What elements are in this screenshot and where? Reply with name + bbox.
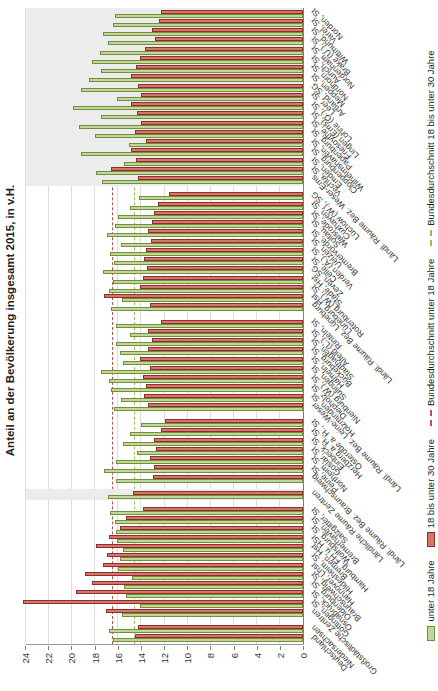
bar-pair xyxy=(26,238,303,247)
bar-pair xyxy=(26,402,303,411)
bar-unter18 xyxy=(121,398,303,402)
bar-unter18 xyxy=(118,215,303,219)
bar-18-30 xyxy=(140,56,303,60)
chart-title: Anteil an der Bevölkerung insgesamt 2015… xyxy=(4,10,16,631)
bar-18-30 xyxy=(150,456,304,460)
bar-18-30 xyxy=(138,625,303,629)
bar-unter18 xyxy=(120,351,304,355)
bar-pair xyxy=(26,247,303,256)
bar-unter18 xyxy=(129,143,303,147)
bar-group-band xyxy=(26,489,303,500)
bar-unter18 xyxy=(116,460,303,464)
bar-unter18 xyxy=(102,180,303,184)
y-tick-mark xyxy=(280,646,281,650)
bar-pair xyxy=(26,446,303,455)
bar-18-30 xyxy=(143,375,303,379)
bar-pair xyxy=(26,437,303,446)
bar-groups xyxy=(26,8,303,644)
bar-18-30 xyxy=(143,507,303,511)
y-tick-label: 2 xyxy=(275,653,286,658)
bar-pair xyxy=(26,328,303,337)
bar-pair xyxy=(26,102,303,111)
bar-pair xyxy=(26,192,303,201)
bar-18-30 xyxy=(140,357,303,361)
bar-unter18 xyxy=(95,134,303,138)
bar-18-30 xyxy=(120,526,304,530)
bar-pair xyxy=(26,525,303,534)
bar-pair xyxy=(26,490,303,499)
bar-group-band xyxy=(26,506,303,619)
bar-unter18 xyxy=(139,196,303,200)
bar-18-30 xyxy=(148,347,303,351)
bar-pair xyxy=(26,37,303,46)
legend-swatch-dash-red xyxy=(430,410,432,426)
bar-pair xyxy=(26,28,303,37)
bar-18-30 xyxy=(141,121,303,125)
label-group: DeutschlandNiedersachsen xyxy=(306,624,410,645)
bar-18-30 xyxy=(146,139,303,143)
bar-pair xyxy=(26,148,303,157)
bar-pair xyxy=(26,384,303,393)
bar-18-30 xyxy=(111,167,303,171)
bar-unter18 xyxy=(115,520,303,524)
legend-item-dash-red: Bundesdurchschnitt unter 18 Jahre xyxy=(425,259,436,426)
bar-18-30 xyxy=(136,158,303,162)
bar-unter18 xyxy=(81,88,303,92)
bar-pair xyxy=(26,229,303,238)
bar-18-30 xyxy=(92,581,303,585)
bar-unter18 xyxy=(121,243,303,247)
y-tick-label: 8 xyxy=(205,653,216,658)
y-tick-label: 18 xyxy=(90,653,101,664)
bar-group-band xyxy=(26,624,303,645)
bar-18-30 xyxy=(165,419,304,423)
bar-pair xyxy=(26,83,303,92)
bar-pair xyxy=(26,220,303,229)
bar-18-30 xyxy=(136,65,303,69)
bar-pair xyxy=(26,375,303,384)
y-tick-mark xyxy=(71,646,72,650)
y-tick-label: 12 xyxy=(159,653,170,664)
bar-18-30 xyxy=(154,465,303,469)
bar-unter18 xyxy=(122,613,303,617)
plot-background xyxy=(26,8,304,645)
bar-unter18 xyxy=(117,97,303,101)
y-tick-label: 6 xyxy=(229,653,240,658)
bar-pair xyxy=(26,507,303,516)
bar-pair xyxy=(26,18,303,27)
bar-pair xyxy=(26,562,303,571)
bar-unter18 xyxy=(118,567,303,571)
y-tick-mark xyxy=(303,646,304,650)
bar-unter18 xyxy=(130,432,303,436)
bar-pair xyxy=(26,111,303,120)
bar-18-30 xyxy=(161,320,303,324)
bar-pair xyxy=(26,120,303,129)
bar-unter18 xyxy=(103,32,303,36)
bar-unter18 xyxy=(140,604,303,608)
bar-unter18 xyxy=(108,41,303,45)
bar-18-30 xyxy=(169,192,303,196)
y-tick-mark xyxy=(48,646,49,650)
bar-18-30 xyxy=(152,220,303,224)
bar-18-30 xyxy=(150,366,304,370)
bar-18-30 xyxy=(155,37,303,41)
bar-unter18 xyxy=(100,51,303,55)
bar-18-30 xyxy=(146,384,303,388)
legend-label: unter 18 Jahre xyxy=(425,560,436,621)
legend: unter 18 Jahre18 bis unter 30 JahreBunde… xyxy=(425,0,436,691)
bar-unter18 xyxy=(132,576,303,580)
bar-18-30 xyxy=(161,428,303,432)
bar-unter18 xyxy=(73,106,303,110)
bar-pair xyxy=(26,474,303,483)
bar-unter18 xyxy=(117,539,303,543)
bar-18-30 xyxy=(104,294,303,298)
bar-unter18 xyxy=(101,69,303,73)
bar-pair xyxy=(26,46,303,55)
bar-18-30 xyxy=(146,248,303,252)
bar-unter18 xyxy=(137,451,303,455)
bar-18-30 xyxy=(144,394,303,398)
bar-18-30 xyxy=(137,111,303,115)
bar-unter18 xyxy=(111,307,303,311)
bar-pair xyxy=(26,166,303,175)
y-tick-label: 0 xyxy=(298,653,309,658)
bar-unter18 xyxy=(116,530,303,534)
